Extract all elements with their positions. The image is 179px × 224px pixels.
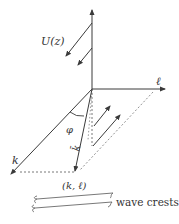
label-wave-crests: wave crests (116, 196, 179, 208)
shear-arrow-lower (78, 48, 92, 65)
flow-arrow-upper (94, 106, 110, 126)
wave-vector-diagram: U(z) ℓ k φ k̄ (k, ℓ) wave crests (0, 0, 179, 224)
label-ell: ℓ (156, 75, 161, 88)
flow-arrow-lower (93, 115, 120, 146)
phi-angle-arc (70, 112, 84, 116)
k-axis (11, 89, 92, 174)
shear-arrow-upper (66, 23, 92, 56)
label-phi: φ (66, 124, 73, 135)
wave-crests-icon (32, 193, 113, 212)
label-point: (k, ℓ) (62, 180, 86, 191)
label-U: U(z) (41, 35, 65, 48)
label-k: k (12, 154, 19, 167)
kbar-vector (75, 89, 92, 171)
